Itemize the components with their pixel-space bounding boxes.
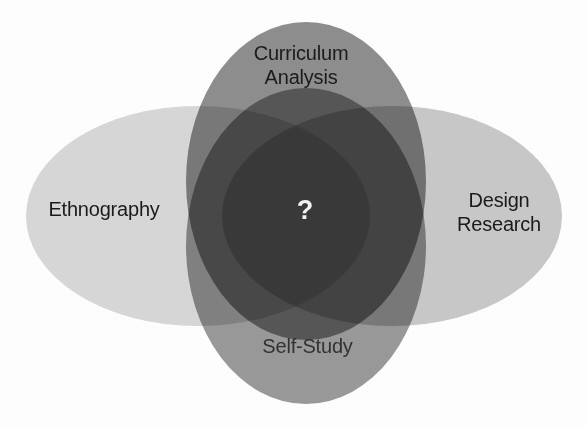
venn-diagram-canvas: Curriculum Analysis Ethnography Design R… <box>0 0 587 426</box>
venn-diagram-svg <box>0 0 587 426</box>
venn-ellipse-self-study[interactable] <box>186 88 426 404</box>
